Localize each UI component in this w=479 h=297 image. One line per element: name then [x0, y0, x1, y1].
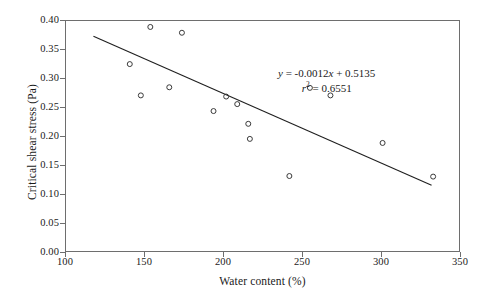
- data-point: [211, 109, 216, 114]
- data-point: [287, 174, 292, 179]
- r-squared-value-text: = 0.6551: [310, 82, 352, 94]
- data-point: [167, 85, 172, 90]
- trendline: [93, 36, 431, 185]
- data-point: [246, 121, 251, 126]
- y-tick-label: 0.40: [40, 15, 59, 25]
- y-tick-label: 0.15: [40, 160, 59, 170]
- data-points-group: [127, 24, 435, 179]
- x-tick-label: 200: [203, 256, 243, 267]
- data-point: [380, 140, 385, 145]
- x-tick-label: 100: [45, 256, 85, 267]
- equation-intercept-text: + 0.5135: [333, 67, 375, 79]
- data-point: [148, 24, 153, 29]
- scatter-chart-figure: 0.40 0.35 0.30 0.25 0.20 0.15 0.10 0.05 …: [0, 0, 479, 297]
- y-tick-label: 0.25: [40, 102, 59, 112]
- x-tick-label: 150: [124, 256, 164, 267]
- x-axis-title: Water content (%): [65, 275, 460, 287]
- y-axis-title: Critical shear stress (Pa): [26, 37, 38, 247]
- y-tick-label: 0.30: [40, 73, 59, 83]
- data-point: [431, 174, 436, 179]
- equation-slope-text: = -0.0012: [283, 67, 329, 79]
- data-point: [127, 62, 132, 67]
- x-tick-label: 250: [282, 256, 322, 267]
- data-point: [235, 102, 240, 107]
- y-tick-label: 0.20: [40, 131, 59, 141]
- regression-equation: y = -0.0012x + 0.5135: [278, 66, 375, 81]
- y-tick-label: 0.35: [40, 44, 59, 54]
- data-point: [247, 136, 252, 141]
- r-squared-label: r2 = 0.6551: [278, 81, 375, 96]
- y-tick-label: 0.10: [40, 189, 59, 199]
- regression-annotation: y = -0.0012x + 0.5135 r2 = 0.6551: [278, 66, 375, 96]
- x-tick-label: 350: [440, 256, 479, 267]
- data-point: [179, 30, 184, 35]
- data-point: [138, 93, 143, 98]
- plot-data-layer: [65, 20, 460, 252]
- x-tick-label: 300: [361, 256, 401, 267]
- y-tick-label: 0.05: [40, 218, 59, 228]
